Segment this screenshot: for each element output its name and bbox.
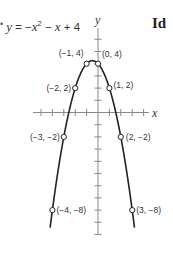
data-point xyxy=(73,86,78,91)
point-label: (2, −2) xyxy=(126,132,151,142)
data-point xyxy=(61,134,66,139)
point-label: (−4, −8) xyxy=(56,205,86,215)
data-point xyxy=(84,61,89,66)
point-label: (−1, 4) xyxy=(59,48,84,58)
data-point xyxy=(95,61,100,66)
point-label: (1, 2) xyxy=(113,80,133,90)
point-label: (−3, −2) xyxy=(30,132,60,142)
data-point xyxy=(107,86,112,91)
point-label: (0, 4) xyxy=(102,49,122,59)
data-point xyxy=(130,208,135,213)
data-point xyxy=(118,134,123,139)
data-point xyxy=(50,208,55,213)
x-axis-label: x xyxy=(151,106,158,120)
y-axis-label: y xyxy=(94,13,101,27)
point-label: (−2, 2) xyxy=(46,83,71,93)
point-label: (3, −8) xyxy=(136,205,161,215)
parabola-plot: xy(−4, −8)(−3, −2)(−2, 2)(−1, 4)(0, 4)(1… xyxy=(0,0,173,257)
